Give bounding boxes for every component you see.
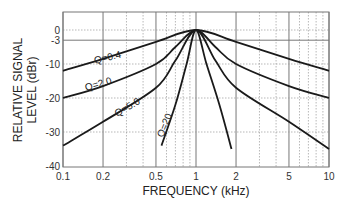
x-tick-label: 5 <box>286 171 292 182</box>
x-axis-label: FREQUENCY (kHz) <box>142 184 249 198</box>
x-tick-label: 0.5 <box>149 171 163 182</box>
y-axis-label-line2: LEVEL (dBr) <box>25 57 39 124</box>
curve-label-q04: Q=0.4 <box>93 49 123 66</box>
y-tick-label: -20 <box>46 93 61 104</box>
y-tick-label: -3 <box>51 35 60 46</box>
curve-label-q20: Q=20 <box>155 111 175 138</box>
x-tick-labels: 0.10.20.512510 <box>56 171 335 182</box>
y-tick-label: -10 <box>46 59 61 70</box>
x-tick-label: 0.2 <box>96 171 110 182</box>
x-tick-label: 0.1 <box>56 171 70 182</box>
grid <box>63 12 329 167</box>
y-tick-label: -40 <box>46 161 61 172</box>
y-tick-label: -30 <box>46 127 61 138</box>
curve-label-q2: Q=2.0 <box>84 75 114 93</box>
x-tick-label: 2 <box>233 171 239 182</box>
curve-label-q5: Q=5.0 <box>113 95 143 119</box>
y-tick-labels: 0-3-10-20-30-40 <box>46 25 61 172</box>
x-tick-label: 1 <box>193 171 199 182</box>
chart: 0-3-10-20-30-40 0.10.20.512510 Q=0.4 Q=2… <box>0 0 348 207</box>
x-tick-label: 10 <box>323 171 335 182</box>
y-axis-label-line1: RELATIVE SIGNAL <box>11 37 25 142</box>
